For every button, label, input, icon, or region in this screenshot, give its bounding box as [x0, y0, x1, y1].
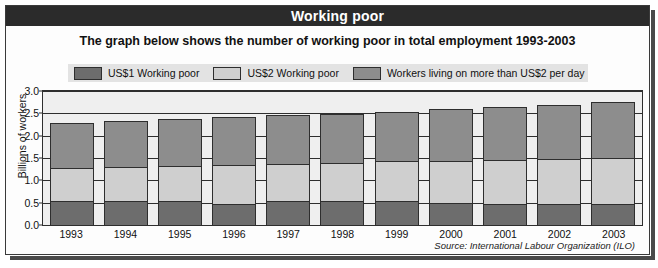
- bar-segment-2001-s2: [483, 107, 527, 161]
- x-tick-label-1999: 1999: [375, 228, 419, 244]
- bar-segment-1998-s1: [320, 163, 364, 202]
- legend-label-above-us2: Workers living on more than US$2 per day: [387, 67, 585, 79]
- chart-subtitle: The graph below shows the number of work…: [6, 28, 649, 54]
- bar-group: [43, 91, 642, 225]
- bar-1998[interactable]: [320, 114, 364, 225]
- bar-2003[interactable]: [591, 102, 635, 225]
- bar-segment-2003-s1: [591, 158, 635, 205]
- chart-area: Billions of workers 0.00.51.01.52.02.53.…: [6, 86, 651, 254]
- bar-segment-1997-s0: [266, 201, 310, 226]
- y-tick-label: 0.5: [24, 197, 39, 209]
- bar-segment-2003-s0: [591, 204, 635, 226]
- chart-page: Working poor The graph below shows the n…: [0, 0, 658, 268]
- bar-segment-1997-s2: [266, 115, 310, 165]
- bar-1999[interactable]: [375, 112, 419, 225]
- bar-1993[interactable]: [50, 123, 94, 225]
- bar-segment-2000-s1: [429, 161, 473, 203]
- bar-segment-1993-s1: [50, 168, 94, 203]
- bar-2002[interactable]: [537, 105, 581, 225]
- bar-1996[interactable]: [212, 117, 256, 225]
- bar-segment-1994-s0: [104, 201, 148, 226]
- x-tick-label-1996: 1996: [212, 228, 256, 244]
- bar-segment-1995-s1: [158, 166, 202, 202]
- y-tick-label: 2.0: [24, 130, 39, 142]
- x-tick-label-1995: 1995: [158, 228, 202, 244]
- bar-2001[interactable]: [483, 107, 527, 225]
- page-title: Working poor: [291, 8, 384, 24]
- bar-segment-1997-s1: [266, 164, 310, 202]
- bar-1995[interactable]: [158, 119, 202, 225]
- bar-segment-2001-s1: [483, 160, 527, 205]
- x-tick-label-1997: 1997: [266, 228, 310, 244]
- bar-segment-2003-s2: [591, 102, 635, 159]
- bar-segment-1995-s2: [158, 119, 202, 167]
- y-tick-label: 1.5: [24, 152, 39, 164]
- bar-segment-1998-s2: [320, 114, 364, 164]
- bar-segment-1994-s1: [104, 167, 148, 203]
- bar-segment-1998-s0: [320, 201, 364, 226]
- legend-swatch-us1: [74, 67, 102, 80]
- title-bar: Working poor: [6, 6, 649, 26]
- legend-swatch-us2: [213, 67, 241, 80]
- bar-segment-1996-s1: [212, 165, 256, 204]
- bar-segment-2002-s1: [537, 159, 581, 205]
- bar-segment-2002-s2: [537, 105, 581, 160]
- bar-segment-1999-s1: [375, 161, 419, 202]
- bar-1997[interactable]: [266, 115, 310, 225]
- x-tick-label-1994: 1994: [103, 228, 147, 244]
- bar-segment-1996-s2: [212, 117, 256, 166]
- y-tick-label: 3.0: [24, 85, 39, 97]
- bar-segment-1993-s0: [50, 201, 94, 226]
- legend-item-us1: US$1 Working poor: [74, 67, 199, 80]
- frame-shadow-bottom: [10, 256, 655, 260]
- chart-frame: Working poor The graph below shows the n…: [5, 5, 650, 255]
- y-tick-label: 1.0: [24, 174, 39, 186]
- bar-segment-1994-s2: [104, 121, 148, 168]
- bar-segment-2001-s0: [483, 204, 527, 226]
- bar-segment-1999-s0: [375, 201, 419, 226]
- chart-legend: US$1 Working poor US$2 Working poor Work…: [68, 64, 588, 82]
- bar-segment-1993-s2: [50, 123, 94, 169]
- bar-2000[interactable]: [429, 109, 473, 225]
- x-tick-label-1993: 1993: [49, 228, 93, 244]
- y-tick-label: 0.0: [24, 219, 39, 231]
- legend-item-above-us2: Workers living on more than US$2 per day: [353, 67, 585, 80]
- bar-segment-2000-s0: [429, 203, 473, 226]
- bar-segment-1996-s0: [212, 204, 256, 226]
- frame-shadow-right: [651, 10, 655, 260]
- bar-segment-1995-s0: [158, 201, 202, 226]
- source-note: Source: International Labour Organizatio…: [434, 240, 635, 251]
- legend-label-us2: US$2 Working poor: [247, 67, 338, 79]
- bar-1994[interactable]: [104, 121, 148, 225]
- y-tick-label: 2.5: [24, 107, 39, 119]
- legend-swatch-above-us2: [353, 67, 381, 80]
- plot-area: 0.00.51.01.52.02.53.0: [42, 90, 643, 226]
- bar-segment-1999-s2: [375, 112, 419, 162]
- legend-item-us2: US$2 Working poor: [213, 67, 338, 80]
- bar-segment-2002-s0: [537, 204, 581, 226]
- legend-label-us1: US$1 Working poor: [108, 67, 199, 79]
- bar-segment-2000-s2: [429, 109, 473, 163]
- x-tick-label-1998: 1998: [320, 228, 364, 244]
